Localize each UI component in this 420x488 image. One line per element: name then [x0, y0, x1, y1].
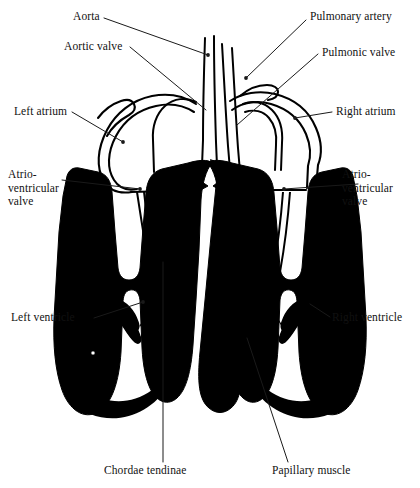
label-papillary-muscle: Papillary muscle — [272, 464, 351, 478]
dot-pulmonary-artery — [244, 76, 248, 80]
heart-diagram-svg — [0, 0, 420, 488]
wall-fleck-artifact — [91, 351, 95, 355]
pulmonary-artery-left-wall — [222, 44, 230, 170]
label-av-valve-left-line3: valve — [8, 195, 59, 209]
atria-group — [98, 85, 321, 193]
label-aorta: Aorta — [73, 10, 100, 24]
leader-pulmonary-artery — [246, 20, 306, 78]
myocardium-silhouette-left — [54, 160, 212, 414]
label-av-valve-right-line1: Atrio- — [342, 168, 393, 182]
label-av-valve-right: Atrio- ventricular valve — [342, 168, 393, 209]
label-right-atrium: Right atrium — [336, 105, 396, 119]
dot-right-atrium — [293, 116, 297, 120]
dot-left-atrium — [121, 140, 125, 144]
dot-av-valve-left — [138, 187, 142, 191]
label-av-valve-left-line1: Atrio- — [8, 168, 59, 182]
label-pulmonary-artery: Pulmonary artery — [310, 10, 392, 24]
leader-aortic-valve — [130, 47, 206, 110]
label-left-ventricle: Left ventricle — [11, 311, 75, 325]
label-av-valve-left-line2: ventricular — [8, 182, 59, 196]
label-left-atrium: Left atrium — [14, 105, 67, 119]
dot-left-ventricle — [141, 300, 145, 304]
label-aortic-valve: Aortic valve — [64, 40, 122, 54]
aorta-right-wall — [214, 36, 217, 166]
label-pulmonic-valve: Pulmonic valve — [322, 46, 395, 60]
label-chordae-tendinae: Chordae tendinae — [104, 464, 186, 478]
label-right-ventricle: Right ventricle — [332, 311, 402, 325]
aorta-left-wall — [202, 38, 205, 166]
label-av-valve-right-line2: ventricular — [342, 182, 393, 196]
heart-anatomy-figure: Aorta Aortic valve Left atrium Atrio- ve… — [0, 0, 420, 488]
dot-aorta — [206, 53, 210, 57]
label-av-valve-left: Atrio- ventricular valve — [8, 168, 59, 209]
pulmonary-trunk-arc-inner — [245, 111, 276, 170]
left-atrium-floor — [131, 191, 170, 192]
leader-right-atrium — [295, 112, 332, 118]
dot-av-valve-right — [282, 187, 286, 191]
great-vessels-group — [153, 36, 282, 182]
myocardium-group — [54, 160, 366, 418]
label-av-valve-right-line3: valve — [342, 195, 393, 209]
